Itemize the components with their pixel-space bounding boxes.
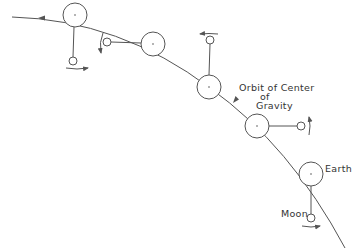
center-dot	[208, 86, 210, 88]
moon-motion-arrow-icon	[309, 117, 310, 135]
earth-moon-orbit-diagram: Orbit of Center of Gravity Earth Moon	[0, 0, 355, 251]
center-dot	[256, 125, 258, 127]
earth-moon-position-2	[100, 32, 165, 56]
moon-motion-arrow-icon	[66, 68, 88, 69]
moon-motion-arrow-icon	[200, 34, 218, 35]
earth-label: Earth	[325, 163, 352, 174]
orbit-label-line3: Gravity	[256, 100, 293, 111]
orbit-direction-arrow-icon	[233, 96, 239, 103]
moon-label: Moon	[281, 208, 308, 219]
earth-moon-position-3	[197, 34, 221, 100]
moon-circle	[297, 122, 305, 130]
moon-motion-arrow-icon	[302, 226, 320, 227]
moon-motion-arrow-icon	[100, 33, 103, 53]
orbit-label-line1: Orbit of Center	[239, 82, 314, 93]
earth-moon-position-1	[63, 3, 88, 69]
center-dot	[310, 173, 312, 175]
center-dot	[152, 43, 154, 45]
moon-circle	[69, 57, 77, 65]
moon-circle	[307, 214, 315, 222]
earth-moon-position-4	[245, 114, 310, 138]
orbit-direction-arrow-icon	[38, 16, 45, 21]
center-dot	[74, 14, 76, 16]
moon-circle	[206, 36, 214, 44]
moon-circle	[103, 38, 111, 46]
